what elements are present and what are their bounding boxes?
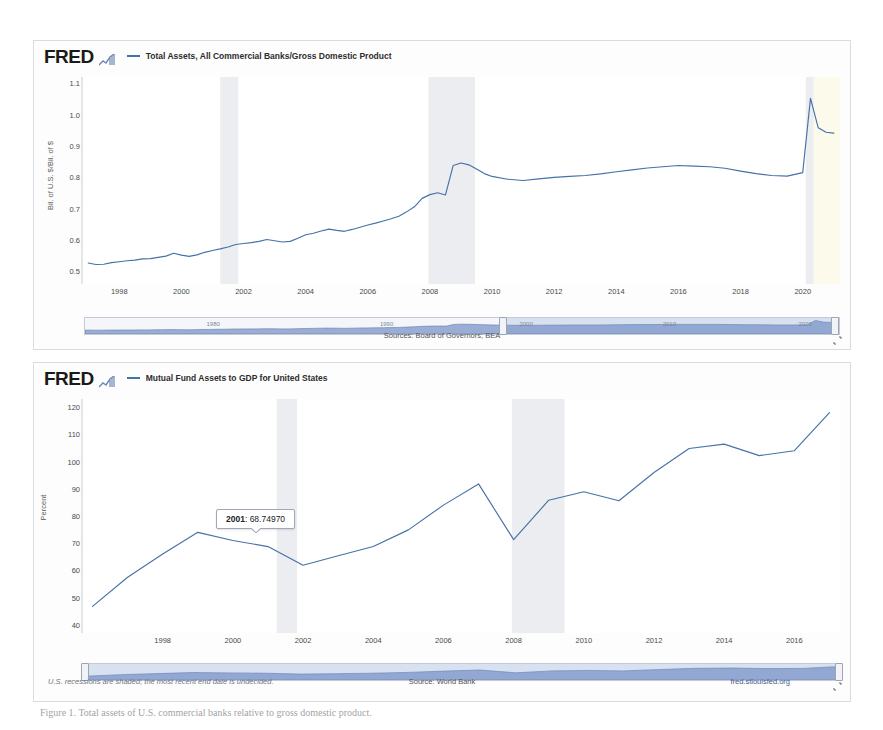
x-tick-label: 2004 [365,636,382,645]
x-tick-label: 2014 [608,287,625,296]
fred-chart-mark-icon [99,52,115,64]
panel-1-plot-area[interactable]: Bil. of U.S. $/Bil. of $ 1.11.00.90.80.7… [34,71,851,306]
x-tick-label: 2010 [575,636,592,645]
panel-2-legend[interactable]: Mutual Fund Assets to GDP for United Sta… [127,373,328,383]
panel-2-header: FRED Mutual Fund Assets to GDP for Unite… [34,363,850,393]
data-point-tooltip: 2001: 68.74970 [216,509,295,529]
x-tick-label: 2002 [235,287,252,296]
panel-1-legend[interactable]: Total Assets, All Commercial Banks/Gross… [127,51,392,61]
panel-1-header: FRED Total Assets, All Commercial Banks/… [34,41,850,71]
tooltip-label: 2001 [226,514,245,524]
x-tick-label: 2002 [295,636,312,645]
tooltip-value: 68.74970 [250,514,285,524]
x-tick-label: 2014 [716,636,733,645]
x-tick-label: 2008 [505,636,522,645]
x-tick-label: 1998 [154,636,171,645]
x-tick-label: 2016 [670,287,687,296]
x-tick-label: 2000 [225,636,242,645]
panel-1-footer: Sources: Board of Governors; BEA [34,329,850,349]
panel-1-source-text: Sources: Board of Governors; BEA [34,331,850,340]
slider-year-label: 1980 [206,321,219,327]
x-tick-label: 2004 [297,287,314,296]
x-tick-label: 2012 [646,636,663,645]
panel-2-source-text: Source: World Bank [34,677,850,686]
legend-line-swatch-icon-2 [127,377,140,379]
slider-year-label: 1990 [380,321,393,327]
x-tick-label: 2020 [794,287,811,296]
panel-2-footer: U.S. recessions are shaded; the most rec… [34,675,850,695]
fred-chart-panel-1: FRED Total Assets, All Commercial Banks/… [33,40,851,350]
panel-1-x-ticks: 1998200020022004200620082010201220142016… [34,287,851,301]
panel-2-chart-svg [34,393,851,655]
x-tick-label: 2018 [732,287,749,296]
page-root: FRED Total Assets, All Commercial Banks/… [0,0,883,730]
x-tick-label: 2012 [546,287,563,296]
panel-2-x-ticks: 1998200020022004200620082010201220142016 [34,636,851,650]
fred-logo: FRED [44,47,94,66]
fred-chart-mark-icon-2 [99,374,115,386]
panel-1-chart-svg [34,71,851,306]
legend-line-swatch-icon [127,55,140,57]
x-tick-label: 2006 [359,287,376,296]
slider-year-label: 2010 [663,321,676,327]
x-tick-label: 2000 [173,287,190,296]
fred-site-url[interactable]: fred.stlouisfed.org [730,677,790,686]
x-tick-label: 2008 [422,287,439,296]
x-tick-label: 2010 [484,287,501,296]
panel-2-resize-grip-icon[interactable] [833,682,842,691]
x-tick-label: 2006 [435,636,452,645]
fred-logo-2: FRED [44,369,94,388]
panel-1-resize-grip-icon[interactable] [833,336,842,345]
tooltip-arrow-icon [251,528,261,533]
slider-year-label: 2020 [798,321,811,327]
fred-chart-panel-2: FRED Mutual Fund Assets to GDP for Unite… [33,362,851,702]
x-tick-label: 2016 [786,636,803,645]
figure-caption: Figure 1. Total assets of U.S. commercia… [40,707,840,729]
panel-1-legend-label: Total Assets, All Commercial Banks/Gross… [146,51,392,61]
panel-2-plot-area[interactable]: Percent 120110100908070605040 1998200020… [34,393,851,655]
slider-year-label: 2000 [519,321,532,327]
panel-2-legend-label: Mutual Fund Assets to GDP for United Sta… [146,373,328,383]
x-tick-label: 1998 [111,287,128,296]
